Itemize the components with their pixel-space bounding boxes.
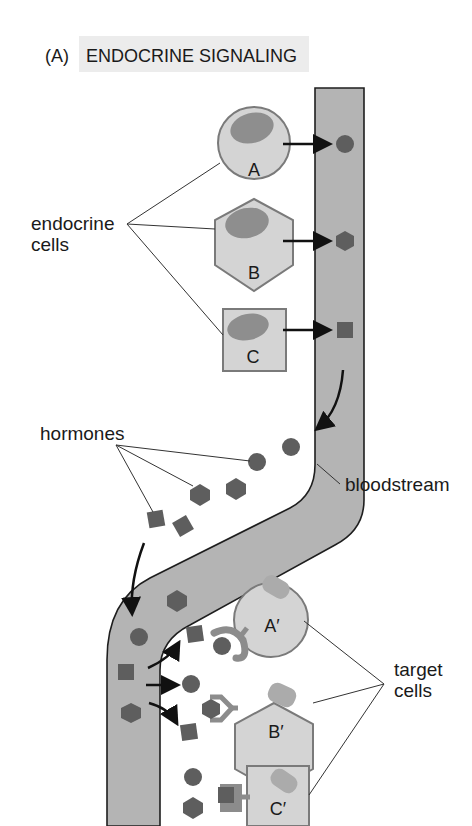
cell-letter: B — [248, 263, 260, 283]
leader-lines — [116, 445, 250, 512]
endocrine-cells-label: cells — [31, 234, 69, 255]
hormone-circle — [184, 768, 202, 786]
hormone-circle — [282, 438, 300, 456]
cell-letter: C — [247, 347, 260, 367]
endocrine-cell-b: B — [215, 199, 293, 291]
cell-letter: C′ — [270, 799, 287, 819]
hormone-circle — [182, 675, 200, 693]
hormone-square — [186, 625, 204, 643]
hormone-square — [180, 723, 198, 741]
endocrine-cell-c: C — [223, 309, 286, 371]
cell-letter: B′ — [268, 722, 284, 742]
hormone-hexagon — [183, 797, 203, 819]
bound-hormone-hexagon — [202, 699, 220, 719]
hormone-square — [172, 515, 194, 537]
hormone-circle — [130, 628, 148, 646]
hormone-square — [337, 322, 353, 338]
leader-lines — [304, 621, 384, 795]
hormone-hexagon — [190, 484, 210, 506]
endocrine-cells-label: endocrine — [31, 213, 114, 234]
bloodstream-vessel — [107, 88, 364, 826]
bloodstream-label: bloodstream — [345, 474, 450, 495]
target-cells-label: cells — [394, 680, 432, 701]
hormone-circle — [248, 453, 266, 471]
cell-letter: A — [248, 160, 260, 180]
figure-title: ENDOCRINE SIGNALING — [86, 46, 297, 66]
bound-hormone-circle — [213, 637, 231, 655]
hormone-square — [118, 664, 134, 680]
leader-lines — [127, 163, 223, 335]
hormone-hexagon — [226, 478, 246, 500]
target-cell-c-prime: C′ — [247, 766, 309, 826]
endocrine-signaling-diagram: (A) ENDOCRINE SIGNALING A B C endocrine … — [0, 0, 472, 826]
bound-hormone-square — [218, 787, 234, 803]
hormones-label: hormones — [40, 423, 125, 444]
target-cells-label: target — [394, 659, 443, 680]
cell-letter: A′ — [264, 616, 280, 636]
hormone-circle — [336, 135, 354, 153]
endocrine-cell-a: A — [218, 107, 290, 180]
hormone-square — [147, 510, 166, 529]
panel-label: (A) — [45, 46, 69, 66]
